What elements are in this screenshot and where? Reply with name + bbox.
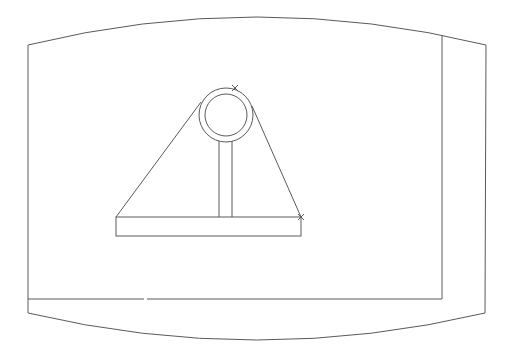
drawing-canvas (0, 0, 511, 348)
pulley-inner-circle (205, 94, 247, 136)
base-plate (116, 217, 301, 236)
frame (28, 17, 486, 340)
right-tangent-line (252, 106, 301, 217)
pulley-assembly (116, 88, 301, 236)
technical-drawing (0, 0, 511, 348)
outer-frame-border (28, 17, 486, 340)
pulley-outer-circle (199, 88, 253, 142)
left-tangent-line (116, 102, 201, 217)
x-marker-icon (232, 85, 238, 91)
